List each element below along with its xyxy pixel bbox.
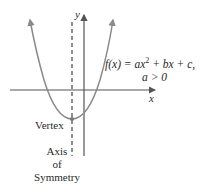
vertex-label: Vertex [35, 119, 64, 131]
parabola-curve [30, 20, 72, 119]
equation-line-2: a > 0 [142, 71, 167, 83]
axis-of-symmetry-label-line-2: of [52, 158, 62, 170]
axis-of-symmetry-label-line-1: Axis [47, 145, 68, 157]
x-axis-label: x [148, 92, 154, 104]
vertex-point [70, 117, 74, 121]
parabola-diagram: y x f(x) = ax2 + bx + c, a > 0 Vertex Ax… [0, 0, 205, 192]
equation-line-1: f(x) = ax2 + bx + c, [105, 56, 195, 71]
y-axis-label: y [74, 8, 80, 20]
axis-of-symmetry-label-line-3: Symmetry [34, 171, 80, 183]
